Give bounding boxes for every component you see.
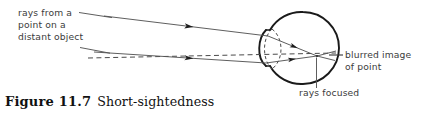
upper-refracted-ray: [268, 36, 317, 56]
focal-point-marker: [316, 55, 318, 57]
source-label: rays from a point on a distant object: [18, 7, 83, 42]
figure-container: rays from a point on a distant object bl…: [0, 0, 423, 116]
eyeball-outline: [270, 12, 339, 84]
source-leader-upper: [79, 13, 112, 18]
source-label-line-2: point on a: [18, 19, 66, 30]
figure-caption-title: Short-sightedness: [97, 94, 214, 109]
figure-caption-number: Figure 11.7: [5, 94, 91, 109]
source-label-line-1: rays from a: [18, 7, 72, 18]
source-label-line-3: distant object: [18, 31, 83, 42]
blurred-image-spread: [317, 51, 336, 61]
rays-focused-label-line-1: rays focused: [299, 87, 359, 98]
upper-incoming-ray: [104, 16, 268, 36]
lower-refracted-ray: [266, 56, 317, 63]
refracted-rays: [266, 36, 317, 63]
rays-focused-label: rays focused: [299, 87, 359, 98]
blurred-image-label-line-2: of point: [345, 61, 382, 72]
lower-blur-ray: [317, 56, 335, 61]
lower-incoming-ray: [94, 52, 266, 63]
figure-caption: Figure 11.7 Short-sightedness: [5, 94, 285, 114]
blurred-image-label-line-1: blurred image: [345, 49, 412, 60]
blurred-image-label: blurred image of point: [345, 49, 412, 72]
